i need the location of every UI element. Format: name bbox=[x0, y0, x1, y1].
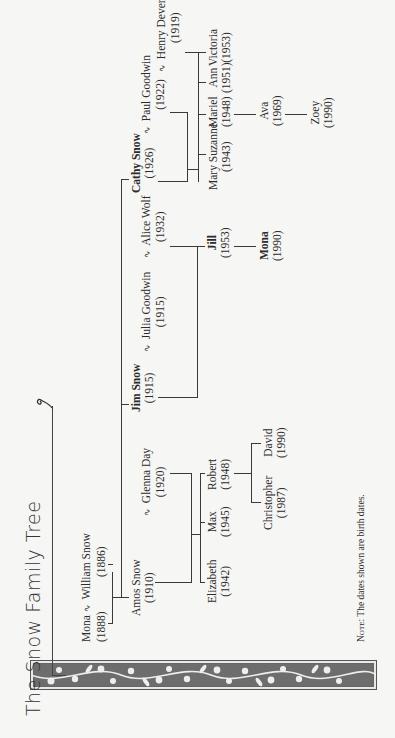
connector bbox=[191, 534, 201, 535]
connector bbox=[198, 114, 206, 115]
connector-jim-alice bbox=[197, 246, 198, 398]
connector bbox=[200, 522, 205, 523]
connector bbox=[234, 246, 256, 247]
connector bbox=[170, 246, 198, 247]
year-william: (1886) bbox=[95, 546, 108, 577]
connector bbox=[158, 181, 188, 182]
person-alice: ∿ Alice Wolf (1932) bbox=[140, 195, 167, 258]
spouse-symbol-icon: ∿ bbox=[142, 508, 152, 516]
title-vertical-tick bbox=[52, 675, 66, 676]
connector bbox=[197, 246, 205, 247]
connector bbox=[234, 473, 252, 474]
connector bbox=[191, 473, 192, 583]
connector bbox=[108, 564, 113, 565]
connector bbox=[121, 179, 129, 180]
person-mariel: Mariel (1948) bbox=[207, 96, 233, 127]
page-title: The Snow Family Tree bbox=[22, 501, 44, 716]
spouse-symbol-icon: ∿ bbox=[142, 250, 152, 258]
connector bbox=[155, 582, 192, 583]
connector-cathy-paul bbox=[187, 112, 188, 182]
person-cathy: Cathy Snow (1926) bbox=[130, 133, 156, 193]
connector bbox=[198, 52, 206, 53]
person-glenna: ∿ Glenna Day (1920) bbox=[140, 448, 167, 516]
connector bbox=[200, 582, 205, 583]
vine-ornament-icon bbox=[31, 661, 376, 689]
person-christopher: Christopher (1987) bbox=[262, 476, 288, 530]
person-zoey: Zoey (1990) bbox=[309, 97, 335, 128]
spouse-symbol-icon: ∿ bbox=[157, 64, 167, 72]
spouse-symbol-icon: ∿ bbox=[142, 126, 152, 134]
connector-siblings-amos bbox=[200, 473, 201, 583]
connector bbox=[170, 112, 188, 113]
connector bbox=[112, 572, 113, 624]
connector-siblings-robert bbox=[251, 443, 252, 503]
family-tree-page: The Snow Family Tree Mona ∿ William Snow… bbox=[0, 0, 395, 738]
person-jim: Jim Snow (1915) bbox=[130, 364, 156, 412]
connector bbox=[200, 473, 205, 474]
person-amos: Amos Snow (1910) bbox=[130, 559, 156, 616]
person-mona-sr: Mona ∿ William Snow bbox=[80, 533, 94, 642]
decorative-vine-border bbox=[30, 660, 377, 690]
person-henry: ∿ Henry Devereau (1919) bbox=[155, 0, 182, 72]
connector bbox=[121, 404, 129, 405]
person-max: Max (1945) bbox=[206, 506, 232, 537]
note-text: The dates shown are birth dates. bbox=[356, 494, 366, 616]
connector bbox=[158, 397, 198, 398]
footnote: Note: The dates shown are birth dates. bbox=[356, 494, 366, 642]
person-robert: Robert (1948) bbox=[206, 459, 232, 490]
spouse-symbol-icon: ∿ bbox=[82, 604, 92, 612]
title-rule bbox=[52, 406, 53, 676]
person-mona-jr: Mona (1990) bbox=[258, 230, 284, 261]
connector bbox=[170, 473, 192, 474]
person-ava: Ava (1969) bbox=[258, 95, 284, 126]
connector bbox=[121, 597, 129, 598]
person-victoria: Victoria (1953) bbox=[207, 29, 233, 66]
person-jill: Jill (1953) bbox=[206, 227, 232, 258]
connector bbox=[234, 114, 256, 115]
person-julia: ∿ Julia Goodwin (1915) bbox=[140, 272, 167, 352]
connector bbox=[185, 52, 199, 53]
connector-cathy-henry bbox=[198, 52, 199, 182]
year-mona-sr: (1888) bbox=[95, 611, 108, 642]
person-elizabeth: Elizabeth (1942) bbox=[206, 560, 232, 603]
connector bbox=[198, 82, 206, 83]
note-label: Note: bbox=[356, 619, 366, 642]
connector bbox=[285, 114, 307, 115]
spouse-symbol-icon: ∿ bbox=[142, 344, 152, 352]
connector bbox=[198, 154, 206, 155]
person-mary-suzanne: Mary Suzanne (1943) bbox=[207, 123, 233, 190]
curl-ornament-icon bbox=[36, 396, 54, 410]
person-ann: Ann (1951) bbox=[207, 62, 233, 93]
rotated-page: The Snow Family Tree Mona ∿ William Snow… bbox=[0, 0, 395, 738]
connector bbox=[251, 502, 261, 503]
connector-siblings-gen2 bbox=[121, 179, 122, 598]
connector bbox=[251, 443, 261, 444]
person-david: David (1990) bbox=[262, 427, 288, 458]
